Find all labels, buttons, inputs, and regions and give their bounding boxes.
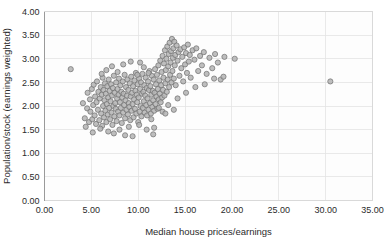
x-tick-label: 15.00 xyxy=(174,205,197,215)
data-point xyxy=(181,79,186,84)
data-point xyxy=(137,122,142,127)
data-point xyxy=(114,119,119,124)
data-point xyxy=(204,71,209,76)
data-point xyxy=(111,131,116,136)
data-point xyxy=(104,67,109,72)
data-point xyxy=(185,42,190,47)
data-point xyxy=(151,132,156,137)
y-tick-label: 0.00 xyxy=(22,196,40,206)
data-point xyxy=(85,90,90,95)
y-tick-label: 2.00 xyxy=(22,101,40,111)
data-point xyxy=(145,79,150,84)
y-tick-label: 1.00 xyxy=(22,148,40,158)
data-point xyxy=(106,77,111,82)
x-tick-label: 20.00 xyxy=(221,205,244,215)
data-point xyxy=(106,129,111,134)
data-point xyxy=(173,83,178,88)
x-axis-title: Median house prices/earnings xyxy=(145,226,272,237)
data-point xyxy=(98,126,103,131)
data-point xyxy=(232,56,237,61)
scatter-chart: 0.005.0010.0015.0020.0025.0030.0035.00 0… xyxy=(0,0,390,243)
data-point xyxy=(212,51,217,56)
data-point xyxy=(171,107,176,112)
data-point xyxy=(154,72,159,77)
x-tick-label: 30.00 xyxy=(314,205,337,215)
data-point xyxy=(152,125,157,130)
x-tick-label: 25.00 xyxy=(268,205,291,215)
y-tick-label: 3.50 xyxy=(22,30,40,40)
data-point xyxy=(117,127,122,132)
data-point xyxy=(94,79,99,84)
data-point xyxy=(194,46,199,51)
data-point xyxy=(137,60,142,65)
data-point xyxy=(112,114,117,119)
x-tick-label: 0.00 xyxy=(36,205,54,215)
data-point xyxy=(99,71,104,76)
data-point xyxy=(170,68,175,73)
data-point xyxy=(171,76,176,81)
data-point xyxy=(202,82,207,87)
data-point xyxy=(119,120,124,125)
data-point xyxy=(175,58,180,63)
data-point xyxy=(68,67,73,72)
data-point xyxy=(212,76,217,81)
data-point xyxy=(177,73,182,78)
y-tick-label: 4.00 xyxy=(22,7,40,17)
y-tick-labels: 0.000.501.001.502.002.503.003.504.00 xyxy=(22,7,40,206)
data-point xyxy=(144,127,149,132)
data-point xyxy=(199,63,204,68)
y-tick-label: 2.50 xyxy=(22,78,40,88)
data-point xyxy=(215,60,220,65)
data-point xyxy=(130,134,135,139)
data-point xyxy=(149,117,154,122)
data-point xyxy=(146,70,151,75)
data-point xyxy=(192,57,197,62)
y-tick-label: 3.00 xyxy=(22,54,40,64)
data-point xyxy=(82,116,87,121)
data-point xyxy=(207,55,212,60)
data-point xyxy=(110,122,115,127)
x-tick-label: 10.00 xyxy=(127,205,150,215)
data-point xyxy=(188,75,193,80)
data-point xyxy=(88,109,93,114)
data-point xyxy=(175,96,180,101)
data-point xyxy=(201,50,206,55)
data-point xyxy=(121,62,126,67)
y-axis-title: Population/stock (earnings weighted) xyxy=(1,28,12,184)
data-point xyxy=(210,66,215,71)
data-point xyxy=(183,90,188,95)
data-point xyxy=(90,130,95,135)
data-point xyxy=(97,118,102,123)
data-point xyxy=(128,59,133,64)
data-point xyxy=(221,74,226,79)
data-point xyxy=(172,63,177,68)
data-point xyxy=(222,54,227,59)
data-point xyxy=(141,65,146,70)
data-point xyxy=(122,133,127,138)
x-tick-label: 35.00 xyxy=(361,205,384,215)
data-point xyxy=(122,72,127,77)
data-point xyxy=(115,69,120,74)
data-point xyxy=(83,124,88,129)
data-point xyxy=(92,113,97,118)
data-point xyxy=(164,89,169,94)
y-tick-label: 0.50 xyxy=(22,172,40,182)
data-point xyxy=(184,70,189,75)
data-point xyxy=(135,72,140,77)
y-tick-label: 1.50 xyxy=(22,125,40,135)
data-point xyxy=(187,52,192,57)
data-point xyxy=(186,59,191,64)
data-point xyxy=(151,77,156,82)
data-point xyxy=(163,111,168,116)
data-point xyxy=(126,124,131,129)
data-point xyxy=(328,79,333,84)
x-tick-label: 5.00 xyxy=(83,205,101,215)
data-point xyxy=(196,68,201,73)
data-point xyxy=(109,64,114,69)
data-point xyxy=(166,102,171,107)
data-point xyxy=(193,85,198,90)
data-point xyxy=(87,97,92,102)
data-point xyxy=(80,101,85,106)
